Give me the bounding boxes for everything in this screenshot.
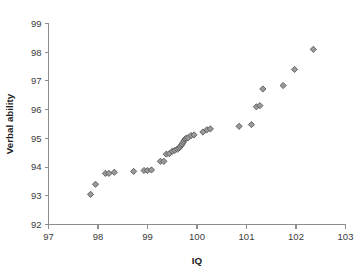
data-points-group — [87, 46, 316, 197]
ticks-group — [45, 24, 346, 229]
y-axis-title: Verbal ability — [4, 93, 15, 154]
x-axis-tick-label: 98 — [93, 231, 104, 242]
data-point-marker — [260, 86, 266, 92]
data-point-marker — [92, 181, 98, 187]
data-point-marker — [291, 66, 297, 72]
data-point-marker — [131, 168, 137, 174]
x-axis-tick-label: 97 — [43, 231, 54, 242]
scatter-plot-figure: 9293949596979899979899100101102103 IQ Ve… — [0, 0, 361, 271]
chart-canvas: 9293949596979899979899100101102103 IQ Ve… — [0, 0, 361, 271]
y-axis-tick-label: 99 — [31, 18, 42, 29]
data-point-marker — [248, 121, 254, 127]
x-axis-tick-label: 102 — [288, 231, 304, 242]
y-axis-tick-label: 94 — [31, 161, 42, 172]
y-axis-tick-label: 93 — [31, 190, 42, 201]
y-axis-tick-label: 92 — [31, 219, 42, 230]
x-axis-tick-label: 99 — [142, 231, 153, 242]
data-point-marker — [236, 123, 242, 129]
data-point-marker — [280, 82, 286, 88]
x-axis-title: IQ — [192, 255, 203, 266]
y-axis-tick-label: 97 — [31, 75, 42, 86]
x-axis-tick-label: 101 — [239, 231, 255, 242]
data-point-marker — [87, 191, 93, 197]
data-point-marker — [111, 169, 117, 175]
data-point-marker — [310, 46, 316, 52]
x-axis-tick-label: 103 — [338, 231, 354, 242]
y-axis-tick-label: 98 — [31, 47, 42, 58]
tick-labels-group: 9293949596979899979899100101102103 — [31, 18, 354, 242]
y-axis-tick-label: 95 — [31, 133, 42, 144]
x-axis-tick-label: 100 — [189, 231, 205, 242]
y-axis-tick-label: 96 — [31, 104, 42, 115]
